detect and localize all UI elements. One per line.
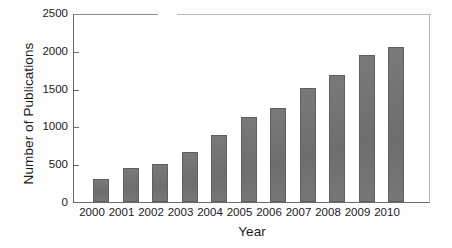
bar-2004 (211, 135, 227, 202)
y-tick-mark (74, 52, 79, 53)
y-tick-label: 2500 (24, 8, 68, 20)
bar-2001 (123, 168, 139, 202)
bar-2010 (388, 47, 404, 202)
bar-2000 (93, 179, 109, 202)
publications-bar-chart: Number of Publications 2500 2000 1500 10… (0, 0, 452, 248)
y-tick-mark (74, 90, 79, 91)
bar-2005 (241, 117, 257, 202)
bar-2007 (300, 88, 316, 202)
plot-area (73, 14, 430, 203)
y-tick-label: 1500 (24, 84, 68, 96)
y-tick-label: 500 (24, 159, 68, 171)
y-tick-label: 2000 (24, 46, 68, 58)
y-axis-title: Number of Publications (21, 14, 36, 214)
y-tick-label: 0 (24, 197, 68, 209)
bar-2009 (359, 55, 375, 202)
bar-2003 (182, 152, 198, 202)
plot-frame-top-right (177, 14, 431, 15)
bar-2002 (152, 164, 168, 202)
bar-2006 (270, 108, 286, 202)
x-axis-title: Year (73, 224, 431, 239)
y-tick-mark (74, 165, 79, 166)
x-tick-label-2010: 2010 (370, 206, 404, 218)
y-tick-mark (74, 127, 79, 128)
bar-2008 (329, 75, 345, 202)
y-tick-label: 1000 (24, 121, 68, 133)
plot-frame-top-left (74, 14, 158, 15)
